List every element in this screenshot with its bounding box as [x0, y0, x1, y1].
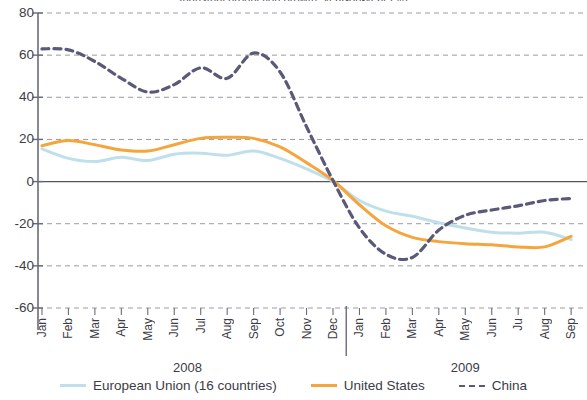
y-axis-tick-label: 80	[0, 6, 34, 20]
x-axis-tick-label: Mar	[89, 318, 101, 339]
x-axis-tick-label: May	[142, 318, 154, 341]
x-axis-tick-label: Dec	[327, 318, 339, 339]
legend-label: China	[492, 378, 527, 393]
x-axis-tick-label: Feb	[62, 318, 74, 339]
x-axis-tick-label: Jul	[195, 318, 207, 333]
x-axis-tick-label: Ju	[512, 318, 524, 331]
x-axis-tick-label: Sep	[565, 318, 577, 339]
series-line	[42, 49, 571, 260]
x-axis-tick-label: Apr	[433, 318, 445, 337]
x-axis-tick-label: Jun	[486, 318, 498, 337]
chart-legend: European Union (16 countries)United Stat…	[0, 378, 587, 393]
y-axis-tick-label: 0	[0, 175, 34, 189]
x-axis-tick-label: Sep	[248, 318, 260, 339]
legend-swatch	[459, 385, 485, 387]
y-axis-tick-label: -40	[0, 259, 34, 273]
x-axis-tick-label: Jun	[168, 318, 180, 337]
y-axis-tick-label: 20	[0, 132, 34, 146]
legend-label: European Union (16 countries)	[93, 378, 277, 393]
chart-container: Industrial production growth, year-on-ye…	[0, 0, 587, 400]
chart-plot-area	[0, 0, 587, 400]
x-axis-tick-label: Aug	[539, 318, 551, 339]
y-axis-tick-label: 40	[0, 90, 34, 104]
y-axis-tick-label: -20	[0, 217, 34, 231]
x-axis-group-label: 2008	[22, 360, 353, 375]
legend-swatch	[311, 384, 337, 387]
y-axis-tick-label: 60	[0, 48, 34, 62]
x-axis-tick-label: Mar	[406, 318, 418, 339]
x-axis-group-label: 2009	[339, 360, 587, 375]
legend-item[interactable]: European Union (16 countries)	[60, 378, 277, 393]
x-axis-tick-label: Apr	[115, 318, 127, 337]
legend-item[interactable]: China	[459, 378, 527, 393]
x-axis-tick-label: Oct	[274, 318, 286, 337]
x-axis-tick-label: Nov	[301, 318, 313, 339]
legend-swatch	[60, 384, 86, 387]
x-axis-tick-label: May	[459, 318, 471, 341]
legend-item[interactable]: United States	[311, 378, 425, 393]
x-axis-tick-label: Jan	[36, 318, 48, 337]
x-axis-tick-label: Feb	[380, 318, 392, 339]
legend-label: United States	[344, 378, 425, 393]
y-axis-tick-label: -60	[0, 301, 34, 315]
x-axis-tick-label: Aug	[221, 318, 233, 339]
x-axis-tick-label: Jan	[353, 318, 365, 337]
